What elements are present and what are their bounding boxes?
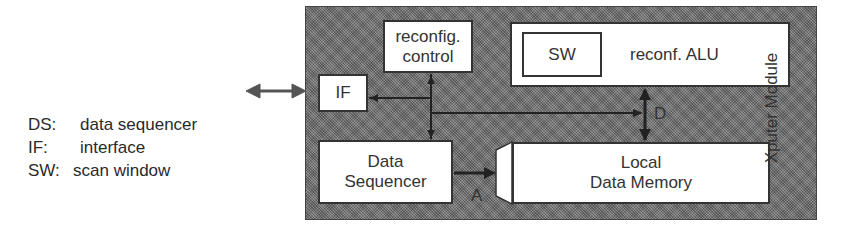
arrow-down-sequencer <box>427 130 435 138</box>
arrow-up-alu <box>639 88 651 100</box>
external-io-arrow <box>246 84 306 98</box>
arrow-down-memory <box>639 129 651 141</box>
address-bus-label: A <box>471 186 482 206</box>
data-bus-label: D <box>654 104 666 124</box>
wires <box>0 0 847 235</box>
memory-notch <box>496 142 512 204</box>
arrow-up-control <box>427 76 435 84</box>
arrow-right-d <box>633 109 643 117</box>
arrow-right-a <box>484 167 496 179</box>
arrow-left-if <box>370 94 378 102</box>
